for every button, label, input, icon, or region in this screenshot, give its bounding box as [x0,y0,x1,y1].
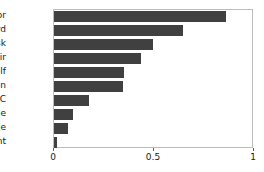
category-label-phone: phone [0,108,6,119]
xtick-mark-1 [153,148,154,151]
xtick-label-1: 0.5 [146,152,160,162]
bar-chart-figure: monitorkeyboarddeskchairbookshelftrash b… [0,0,264,172]
xtick-label-0: 0 [50,152,56,162]
category-axis-labels: monitorkeyboarddeskchairbookshelftrash b… [0,9,264,148]
category-label-desk: desk [0,38,6,49]
category-label-table: table [0,122,6,133]
xtick-mark-0 [53,148,54,151]
xtick-label-2: 1 [250,152,256,162]
category-label-bookshelf: bookshelf [0,66,6,77]
category-label-keyboard: keyboard [0,24,6,35]
category-label-monitor: monitor [0,10,6,21]
value-axis-ticks: 00.51 [53,148,253,170]
category-label-PC: PC [0,94,6,105]
category-label-chair: chair [0,52,6,63]
category-label-plant: plant [0,136,6,147]
xtick-mark-2 [253,148,254,151]
category-label-trash-bin: trash bin [0,80,6,91]
